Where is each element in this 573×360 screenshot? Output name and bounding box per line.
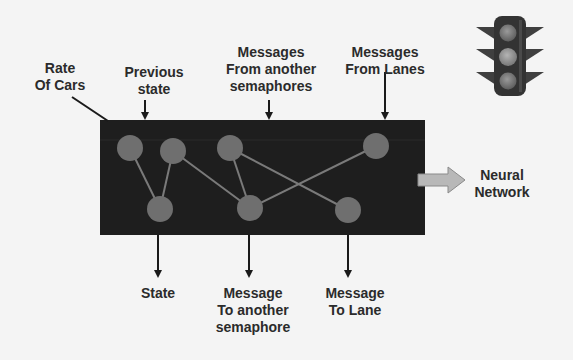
label-line: Rate (35, 60, 86, 77)
label-messages-from-lanes: Messages From Lanes (345, 44, 424, 78)
label-message-to-semaphore: Message To another semaphore (216, 285, 291, 336)
label-messages-from-semaphores: Messages From another semaphores (226, 44, 316, 95)
node-top-4 (363, 133, 389, 159)
label-line: Messages (345, 44, 424, 61)
node-top-1 (117, 135, 143, 161)
label-line: Previous (124, 64, 183, 81)
label-line: State (141, 285, 175, 302)
label-previous-state: Previous state (124, 64, 183, 98)
label-rate-of-cars: Rate Of Cars (35, 60, 86, 94)
label-line: From Lanes (345, 61, 424, 78)
label-line: Network (474, 184, 529, 201)
label-line: semaphore (216, 319, 291, 336)
node-bottom-3 (335, 197, 361, 223)
traffic-light-icon (476, 16, 544, 96)
label-neural-network: Neural Network (474, 167, 529, 201)
label-line: Messages (226, 44, 316, 61)
rate-of-cars-pointer (72, 97, 108, 121)
node-bottom-1 (147, 196, 173, 222)
traffic-light-bottom-lamp (500, 73, 517, 90)
traffic-light-top-lamp (500, 25, 517, 42)
node-top-3 (217, 135, 243, 161)
label-line: semaphores (226, 78, 316, 95)
node-top-2 (160, 138, 186, 164)
label-message-to-lane: Message To Lane (325, 285, 384, 319)
label-line: To another (216, 302, 291, 319)
traffic-light-middle-lamp (499, 48, 517, 66)
label-line: From another (226, 61, 316, 78)
label-line: Of Cars (35, 77, 86, 94)
neural-network-semaphore-diagram: Rate Of Cars Previous state Messages Fro… (0, 0, 573, 360)
label-state: State (141, 285, 175, 302)
label-line: Neural (474, 167, 529, 184)
neural-network-arrow (418, 167, 465, 193)
node-bottom-2 (237, 195, 263, 221)
label-line: To Lane (325, 302, 384, 319)
label-line: Message (216, 285, 291, 302)
label-line: state (124, 81, 183, 98)
label-line: Message (325, 285, 384, 302)
